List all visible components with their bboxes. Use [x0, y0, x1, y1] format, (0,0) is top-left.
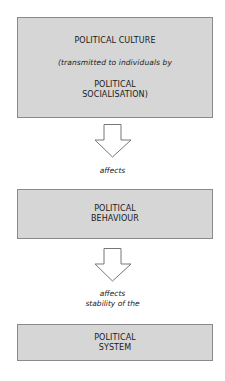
political-system-box: POLITICAL SYSTEM — [17, 324, 213, 361]
political-behaviour-line2: BEHAVIOUR — [91, 214, 139, 224]
down-arrow-icon — [94, 124, 132, 158]
affects-label: affects — [0, 166, 225, 176]
political-system-line2: SYSTEM — [99, 343, 132, 353]
down-arrow-icon — [94, 248, 132, 282]
political-culture-title: POLITICAL CULTURE — [74, 36, 155, 46]
political-culture-box: POLITICAL CULTURE (transmitted to indivi… — [17, 17, 213, 118]
political-socialisation-line2: SOCIALISATION) — [82, 90, 148, 100]
affects-stability-label-line2: stability of the — [0, 299, 225, 309]
transmission-note: (transmitted to individuals by — [58, 58, 172, 68]
affects-stability-label-line1: affects — [0, 289, 225, 299]
political-system-line1: POLITICAL — [94, 333, 136, 343]
political-behaviour-line1: POLITICAL — [94, 204, 136, 214]
political-behaviour-box: POLITICAL BEHAVIOUR — [17, 189, 213, 239]
political-socialisation-line1: POLITICAL — [94, 80, 136, 90]
